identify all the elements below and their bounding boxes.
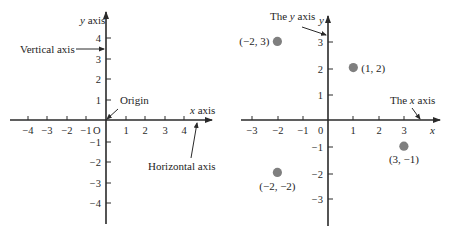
y-axis-callout-pointer — [302, 27, 326, 35]
y-tick-label: 1 — [318, 90, 323, 101]
point-label: (1, 2) — [361, 62, 385, 75]
y-tick-label: 2 — [318, 64, 323, 75]
y-tick-label: −2 — [90, 157, 101, 168]
y-axis-callout: The y axis — [270, 10, 315, 22]
vertical-axis-label: Vertical axis — [20, 43, 75, 55]
y-tick-label: −3 — [312, 194, 323, 205]
y-tick-label: 2 — [96, 74, 101, 85]
x-tick-label: −2 — [272, 125, 283, 136]
point-label: (−2, −2) — [259, 180, 296, 193]
callout-axis: axis — [295, 10, 315, 22]
x-tick-label: −3 — [246, 125, 257, 136]
horizontal-axis-pointer — [191, 123, 197, 158]
x-tick-label: −1 — [80, 125, 91, 136]
y-tick-label: −1 — [90, 137, 101, 148]
right-origin-tick: 0 — [318, 125, 323, 136]
y-tick-label: −3 — [90, 178, 101, 189]
x-axis-callout-pointer — [412, 108, 420, 119]
origin-label: Origin — [120, 94, 149, 106]
y-tick-label: 3 — [318, 37, 323, 48]
point-marker — [349, 63, 358, 72]
left-x-ticks: −4−3−2−11234 — [22, 116, 187, 136]
coordinate-plane-figures: −4−3−2−11234 4321−1−2−3−4 y axis x axis … — [0, 0, 453, 238]
left-y-axis-label: y axis — [79, 14, 105, 26]
y-tick-label: −4 — [90, 198, 102, 209]
left-x-axis-label: x axis — [189, 104, 215, 116]
y-tick-label: 3 — [96, 54, 101, 65]
right-coordinate-plane: −3−2−1123 321−1−2−3 y x 0 The y axis The… — [239, 10, 440, 226]
left-coordinate-plane: −4−3−2−11234 4321−1−2−3−4 y axis x axis … — [10, 12, 216, 224]
left-y-ticks: 4321−1−2−3−4 — [90, 33, 111, 209]
x-tick-label: 2 — [376, 125, 381, 136]
callout-the: The — [390, 94, 410, 106]
x-tick-label: 3 — [401, 125, 406, 136]
y-tick-label: 1 — [96, 95, 101, 106]
x-tick-label: −2 — [61, 125, 72, 136]
x-tick-label: −4 — [22, 125, 34, 136]
x-tick-label: 4 — [181, 125, 187, 136]
y-tick-label: 4 — [96, 33, 102, 44]
right-x-axis-label: x — [429, 124, 435, 136]
callout-axis: axis — [415, 94, 435, 106]
right-y-axis-label: y — [318, 14, 324, 26]
x-tick-label: 2 — [142, 125, 147, 136]
x-tick-label: 3 — [162, 125, 167, 136]
point-marker — [273, 168, 282, 177]
y-tick-label: −2 — [312, 169, 323, 180]
point-marker — [273, 37, 282, 46]
x-tick-label: −1 — [297, 125, 308, 136]
callout-the: The — [270, 10, 290, 22]
y-axis-word: axis — [85, 14, 105, 26]
horizontal-axis-label: Horizontal axis — [148, 160, 216, 172]
right-y-ticks: 321−1−2−3 — [312, 37, 333, 205]
x-axis-word: axis — [195, 104, 215, 116]
left-origin-tick: O — [93, 125, 101, 136]
x-tick-label: −3 — [41, 125, 52, 136]
x-tick-label: 1 — [123, 125, 128, 136]
y-tick-label: −1 — [312, 142, 323, 153]
x-axis-callout: The x axis — [390, 94, 435, 106]
point-marker — [399, 142, 408, 151]
x-tick-label: 1 — [350, 125, 355, 136]
origin-pointer — [107, 109, 118, 119]
right-x-ticks: −3−2−1123 — [246, 116, 406, 136]
plotted-points: (−2, 3)(1, 2)(3, −1)(−2, −2) — [239, 35, 419, 193]
point-label: (−2, 3) — [239, 35, 269, 48]
point-label: (3, −1) — [389, 153, 419, 166]
